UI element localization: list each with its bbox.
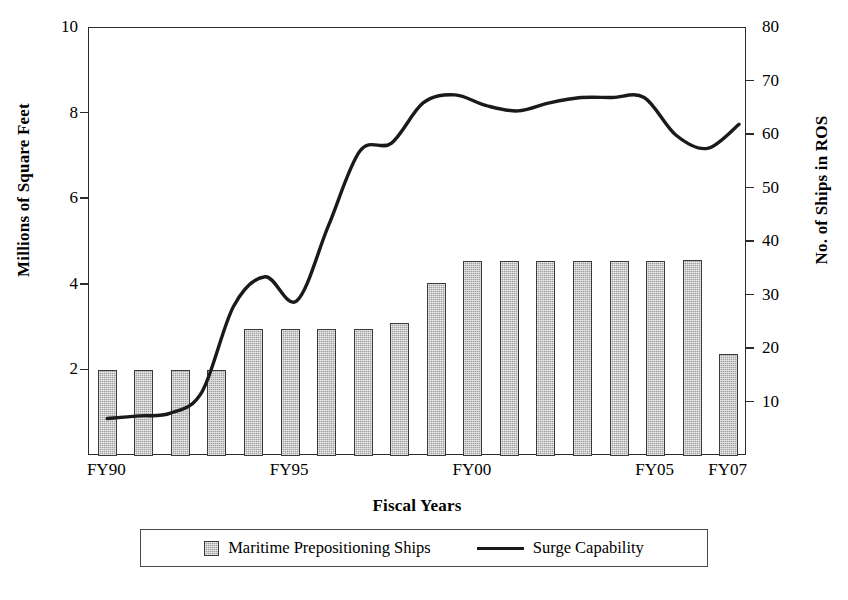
y-axis-right-tick-20: 20 xyxy=(762,339,802,356)
y-axis-right-tick-50: 50 xyxy=(762,179,802,196)
x-axis-tick-FY07: FY07 xyxy=(708,460,747,480)
bar-FY00 xyxy=(463,261,482,456)
bar-FY04 xyxy=(610,261,629,456)
y-axis-left-tick-2: 2 xyxy=(38,360,78,377)
x-axis-tick-FY00: FY00 xyxy=(452,460,491,480)
y-axis-left-tick-6: 6 xyxy=(38,189,78,206)
legend-label-line: Surge Capability xyxy=(533,538,644,558)
y-axis-right-tick-80: 80 xyxy=(762,18,802,35)
y-axis-left-tick-4: 4 xyxy=(38,275,78,292)
bar-FY05 xyxy=(646,261,665,456)
y-axis-right-tick-30: 30 xyxy=(762,286,802,303)
legend-label-bars: Maritime Prepositioning Ships xyxy=(228,538,431,558)
bar-FY94 xyxy=(244,329,263,456)
plot-area xyxy=(88,27,746,455)
y-axis-left-tick-8: 8 xyxy=(38,104,78,121)
bar-FY90 xyxy=(98,370,117,456)
y-axis-left-tick-10: 10 xyxy=(38,18,78,35)
x-axis-tick-FY05: FY05 xyxy=(635,460,674,480)
bar-FY07 xyxy=(719,354,738,456)
chart-legend: Maritime Prepositioning Ships Surge Capa… xyxy=(140,529,708,567)
legend-square-swatch-icon xyxy=(204,541,219,556)
y-axis-right-tick-40: 40 xyxy=(762,232,802,249)
chart-container: Millions of Square Feet No. of Ships in … xyxy=(0,0,848,600)
bar-FY92 xyxy=(171,370,190,456)
bar-FY95 xyxy=(281,329,300,456)
bar-FY96 xyxy=(317,329,336,456)
bar-FY98 xyxy=(390,323,409,456)
bar-FY02 xyxy=(536,261,555,456)
y-axis-right-tick-60: 60 xyxy=(762,125,802,142)
legend-item-maritime-prepositioning-ships: Maritime Prepositioning Ships xyxy=(204,538,431,558)
bar-FY03 xyxy=(573,261,592,456)
y-axis-right-ticklabels: 1020304050607080 xyxy=(762,0,814,600)
bar-series-maritime-prepositioning-ships xyxy=(89,28,747,456)
bar-FY99 xyxy=(427,283,446,456)
bar-FY93 xyxy=(207,370,226,456)
x-axis-ticklabels: FY90FY95FY00FY05FY07 xyxy=(0,460,848,488)
y-axis-left-ticklabels: 246810 xyxy=(26,0,78,600)
bar-FY97 xyxy=(354,329,373,456)
y-axis-right-tick-10: 10 xyxy=(762,393,802,410)
bar-FY01 xyxy=(500,261,519,456)
bar-FY91 xyxy=(134,370,153,456)
legend-item-surge-capability: Surge Capability xyxy=(477,538,644,558)
x-axis-tick-FY90: FY90 xyxy=(87,460,126,480)
legend-line-segment-icon xyxy=(477,547,524,550)
x-axis-tick-FY95: FY95 xyxy=(270,460,309,480)
y-axis-right-tick-70: 70 xyxy=(762,72,802,89)
x-axis-title: Fiscal Years xyxy=(88,496,746,516)
y-axis-right-title: No. of Ships in ROS xyxy=(812,0,842,420)
bar-FY06 xyxy=(683,260,702,456)
